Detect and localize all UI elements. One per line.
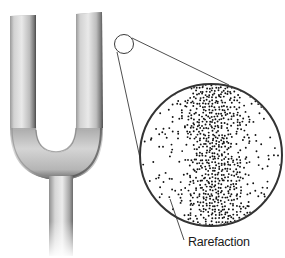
- magnifier-source-circle: [115, 35, 134, 54]
- fork-right-prong: [76, 12, 103, 130]
- fork-bend: [10, 128, 103, 180]
- tuning-fork-diagram: [0, 0, 285, 258]
- magnified-air-particles: [140, 83, 282, 226]
- tuning-fork: [10, 12, 103, 258]
- rarefaction-label: Rarefaction: [188, 235, 250, 249]
- fork-left-prong: [10, 15, 36, 130]
